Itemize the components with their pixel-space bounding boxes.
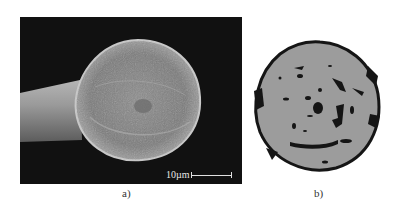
- scale-bar-label: 10µm: [166, 170, 190, 180]
- fiber-shaft: [20, 80, 82, 142]
- scale-bar: [191, 175, 232, 176]
- binarized-cross-section: [250, 36, 385, 176]
- sem-micrograph-panel: 10µm: [20, 17, 242, 184]
- sem-fiber-image: [20, 17, 242, 184]
- caption-b: b): [314, 187, 323, 199]
- caption-a: a): [122, 187, 131, 199]
